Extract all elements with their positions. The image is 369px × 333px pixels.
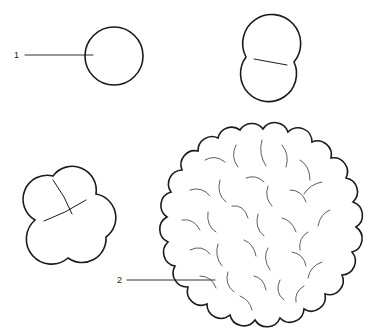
- label-2: 2: [117, 276, 122, 285]
- morula-stage: [160, 123, 363, 327]
- two-cell-stage: [241, 15, 301, 102]
- cleavage-diagram: [0, 0, 369, 333]
- four-cell-stage: [23, 166, 116, 264]
- single-cell: [85, 27, 143, 85]
- label-1: 1: [14, 51, 19, 60]
